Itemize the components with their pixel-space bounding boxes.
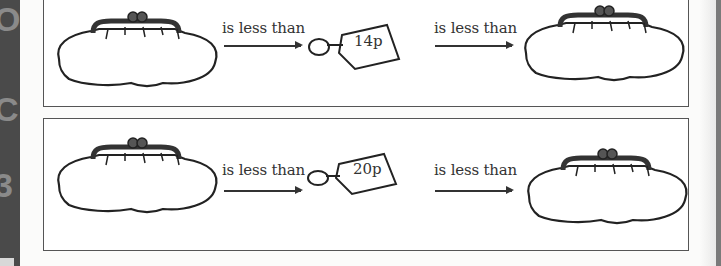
edge-glyph: 3	[0, 168, 13, 202]
relation-label: is less than	[434, 19, 517, 37]
relation-label: is less than	[222, 161, 305, 179]
purse-icon	[53, 7, 221, 87]
comparison-panel-2: is less than 20p is less than	[43, 118, 689, 251]
purse-icon	[523, 144, 691, 224]
edge-glyph: O	[0, 2, 20, 36]
arrow-icon	[224, 190, 301, 192]
relation-label: is less than	[222, 19, 305, 37]
relation-label: is less than	[434, 161, 517, 179]
price-label: 14p	[354, 32, 383, 50]
page-gutter-shade	[700, 0, 716, 266]
comparison-panel-1: is less than 14p is less than	[43, 0, 689, 107]
purse-icon	[520, 1, 688, 81]
arrow-icon	[435, 45, 512, 47]
edge-glyph: C	[0, 92, 19, 126]
purse-icon	[53, 133, 221, 213]
arrow-icon	[435, 190, 512, 192]
page-edge-right	[716, 0, 721, 266]
edge-block	[0, 258, 14, 266]
page-edge-left: O C 3	[0, 0, 20, 266]
arrow-icon	[224, 45, 301, 47]
price-label: 20p	[353, 160, 382, 178]
